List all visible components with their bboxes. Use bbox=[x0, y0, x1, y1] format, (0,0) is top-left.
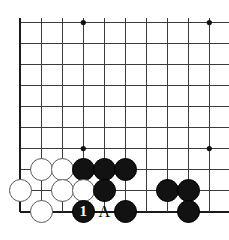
star-point bbox=[81, 146, 86, 151]
black-stone[interactable] bbox=[177, 200, 200, 223]
white-stone[interactable] bbox=[51, 158, 74, 181]
white-stone[interactable] bbox=[30, 158, 53, 181]
black-stone[interactable] bbox=[156, 179, 179, 202]
black-stone[interactable] bbox=[93, 179, 116, 202]
black-stone[interactable] bbox=[72, 158, 95, 181]
star-point bbox=[207, 20, 212, 25]
black-stone[interactable] bbox=[93, 158, 116, 181]
white-stone[interactable] bbox=[72, 179, 95, 202]
black-stone[interactable] bbox=[114, 200, 137, 223]
white-stone[interactable] bbox=[51, 179, 74, 202]
star-point bbox=[207, 146, 212, 151]
go-board-diagram: 1A bbox=[0, 0, 229, 240]
black-stone[interactable] bbox=[114, 158, 137, 181]
white-stone[interactable] bbox=[9, 179, 32, 202]
black-stone[interactable] bbox=[177, 179, 200, 202]
star-point bbox=[81, 20, 86, 25]
black-stone[interactable] bbox=[72, 200, 95, 223]
white-stone[interactable] bbox=[30, 200, 53, 223]
